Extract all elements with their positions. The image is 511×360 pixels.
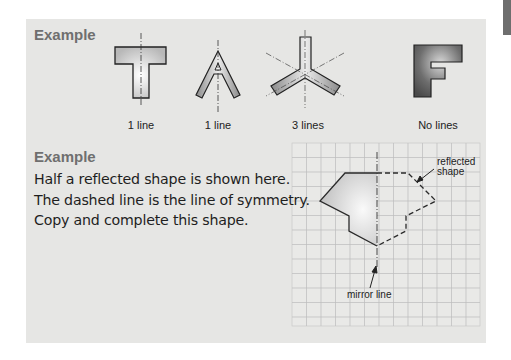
label-a: 1 line — [183, 119, 253, 131]
label-t: 1 line — [106, 119, 176, 131]
label-f: No lines — [403, 119, 473, 131]
reflected-shape-label: reflected shape — [437, 157, 475, 177]
instruction-line-3: Copy and complete this shape. — [34, 210, 310, 231]
instruction-text: Half a reflected shape is shown here. Th… — [34, 169, 310, 231]
instruction-line-2: The dashed line is the line of symmetry. — [34, 190, 310, 211]
example-heading-2: Example — [34, 148, 96, 165]
instruction-line-1: Half a reflected shape is shown here. — [34, 169, 310, 190]
letter-a-shape — [196, 40, 240, 112]
letter-t-shape — [115, 33, 166, 105]
mirror-line-label: mirror line — [347, 290, 391, 300]
three-arm-shape — [266, 30, 344, 108]
letter-f-shape — [414, 45, 462, 97]
label-three-arm: 3 lines — [273, 119, 343, 131]
